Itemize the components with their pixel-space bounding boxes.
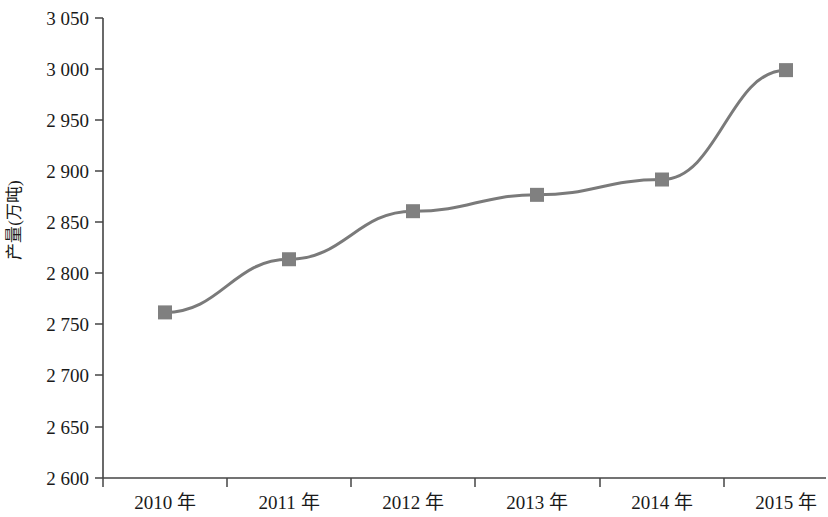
y-tick-label: 2 600 bbox=[46, 468, 89, 489]
y-tick-label: 2 700 bbox=[46, 365, 89, 386]
x-tick-label: 2013 年 bbox=[506, 492, 568, 513]
y-axis-ticks bbox=[95, 18, 103, 478]
x-tick-label: 2014 年 bbox=[631, 492, 693, 513]
data-point-marker[interactable] bbox=[158, 305, 172, 319]
y-axis-tick-labels: 3 050 3 000 2 950 2 900 2 850 2 800 2 75… bbox=[46, 8, 89, 489]
x-axis-ticks bbox=[103, 478, 724, 487]
x-tick-label: 2015 年 bbox=[755, 492, 817, 513]
x-tick-label: 2011 年 bbox=[258, 492, 319, 513]
data-point-marker[interactable] bbox=[655, 173, 669, 187]
x-tick-label: 2012 年 bbox=[382, 492, 444, 513]
y-tick-label: 2 750 bbox=[46, 314, 89, 335]
y-tick-label: 2 850 bbox=[46, 212, 89, 233]
y-tick-label: 2 950 bbox=[46, 110, 89, 131]
y-axis-title: 产量(万吨) bbox=[5, 180, 24, 259]
data-point-marker[interactable] bbox=[406, 204, 420, 218]
y-tick-label: 3 050 bbox=[46, 8, 89, 29]
data-point-marker[interactable] bbox=[282, 252, 296, 266]
data-point-marker[interactable] bbox=[530, 188, 544, 202]
y-tick-label: 2 800 bbox=[46, 263, 89, 284]
data-point-marker[interactable] bbox=[779, 63, 793, 77]
x-tick-label: 2010 年 bbox=[134, 492, 196, 513]
chart-page: 3 050 3 000 2 950 2 900 2 850 2 800 2 75… bbox=[0, 0, 828, 517]
y-tick-label: 2 650 bbox=[46, 417, 89, 438]
series-line bbox=[165, 70, 786, 312]
y-tick-label: 2 900 bbox=[46, 161, 89, 182]
x-axis-tick-labels: 2010 年 2011 年 2012 年 2013 年 2014 年 2015 … bbox=[134, 492, 817, 513]
y-tick-label: 3 000 bbox=[46, 59, 89, 80]
line-chart: 3 050 3 000 2 950 2 900 2 850 2 800 2 75… bbox=[0, 0, 828, 517]
series-production bbox=[158, 63, 793, 319]
